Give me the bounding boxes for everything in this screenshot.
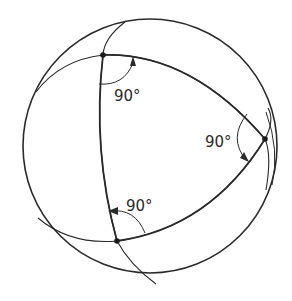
angle-arc-b bbox=[237, 114, 247, 160]
great-circle-ac bbox=[100, 22, 156, 284]
vertex-b bbox=[262, 136, 268, 142]
angle-label-c: 90° bbox=[126, 197, 153, 215]
angle-arc-a bbox=[99, 63, 133, 84]
vertex-a bbox=[100, 52, 106, 58]
vertex-c bbox=[114, 238, 120, 244]
diagram-canvas: 90° 90° 90° bbox=[0, 0, 292, 301]
great-circle-ab bbox=[36, 55, 269, 190]
spherical-triangle-diagram: 90° 90° 90° bbox=[0, 0, 292, 301]
great-circle-bc bbox=[38, 108, 271, 242]
sphere-outline bbox=[23, 19, 277, 273]
angle-label-b: 90° bbox=[205, 133, 232, 151]
angle-label-a: 90° bbox=[114, 87, 141, 105]
